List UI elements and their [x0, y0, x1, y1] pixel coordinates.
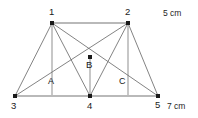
node-label-5: 5	[155, 100, 160, 109]
truss-edge-e_1_3	[15, 23, 52, 96]
truss-edge-e_2_5	[128, 23, 158, 96]
node-label-3: 3	[11, 101, 16, 110]
truss-node-1	[50, 21, 54, 25]
midpoint-label-C: C	[119, 77, 126, 86]
node-label-1: 1	[49, 7, 54, 16]
truss-node-2	[126, 21, 130, 25]
truss-node-5	[156, 94, 160, 98]
node-label-2: 2	[125, 7, 130, 16]
truss-node-3	[13, 94, 17, 98]
dimension-label-dim_bottom: 7 cm	[167, 101, 185, 111]
truss-edge-e_2_3	[15, 23, 128, 96]
midpoint-label-A: A	[48, 77, 54, 86]
dimension-label-dim_top: 5 cm	[163, 8, 181, 18]
truss-diagram: 12345BAC5 cm7 cm	[0, 0, 198, 118]
node-label-4: 4	[87, 101, 92, 110]
truss-node-4	[88, 94, 92, 98]
truss-edge-e_1_5	[52, 23, 158, 96]
node-label-B: B	[86, 60, 92, 69]
